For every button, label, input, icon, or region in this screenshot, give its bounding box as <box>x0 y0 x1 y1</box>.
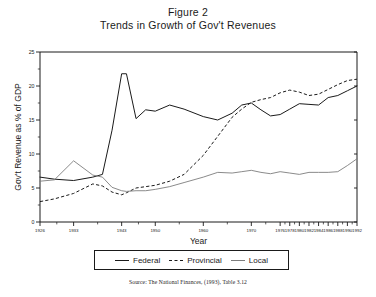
series-line-provincial <box>40 79 357 201</box>
svg-text:0: 0 <box>32 219 35 225</box>
legend-swatch-federal <box>115 260 129 261</box>
chart-series <box>40 74 357 202</box>
svg-text:15: 15 <box>29 117 35 123</box>
svg-text:20: 20 <box>29 83 35 89</box>
chart-axis-labels: 0510152025192619331943195019601970197619… <box>13 49 362 246</box>
series-line-federal <box>40 74 357 181</box>
svg-text:1960: 1960 <box>198 228 208 233</box>
svg-text:5: 5 <box>32 185 35 191</box>
legend-item-local: Local <box>231 256 268 265</box>
svg-text:1933: 1933 <box>69 228 79 233</box>
legend-label-provincial: Provincial <box>187 256 222 265</box>
source-note: Source: The National Finances, (1993), T… <box>0 279 376 285</box>
chart-axes <box>36 52 357 226</box>
legend-item-federal: Federal <box>115 256 160 265</box>
legend-label-federal: Federal <box>133 256 160 265</box>
legend-item-provincial: Provincial <box>169 256 222 265</box>
legend-label-local: Local <box>249 256 268 265</box>
svg-text:1950: 1950 <box>150 228 160 233</box>
legend-swatch-local <box>231 260 245 261</box>
svg-text:1992: 1992 <box>352 228 362 233</box>
svg-text:10: 10 <box>29 151 35 157</box>
chart-legend: Federal Provincial Local <box>94 250 289 270</box>
svg-text:1943: 1943 <box>117 228 127 233</box>
svg-text:Gov't Revenue as % of GDP: Gov't Revenue as % of GDP <box>13 83 23 191</box>
svg-text:1970: 1970 <box>246 228 256 233</box>
svg-text:1926: 1926 <box>35 228 45 233</box>
svg-text:Year: Year <box>190 236 207 246</box>
svg-text:25: 25 <box>29 49 35 55</box>
figure-root: Figure 2 Trends in Growth of Gov't Reven… <box>0 0 376 297</box>
legend-swatch-provincial <box>169 260 183 261</box>
